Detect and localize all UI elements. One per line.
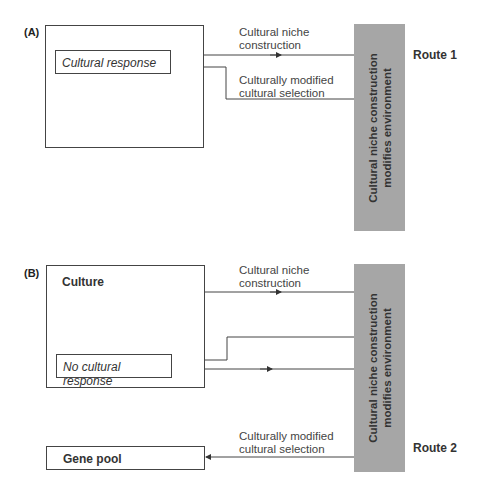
label-line: Cultural niche xyxy=(239,26,309,39)
cultural-response-label: Cultural response xyxy=(62,56,156,70)
gene-pool-label: Gene pool xyxy=(63,452,122,466)
bar-line: Cultural niche construction xyxy=(366,293,380,443)
label-line: cultural selection xyxy=(239,87,334,100)
niche-construction-label-a: Cultural niche construction xyxy=(239,26,309,51)
bar-line: modifies environment xyxy=(380,293,394,443)
cultural-response-box: Cultural response xyxy=(55,50,171,74)
cultural-selection-label-a: Culturally modified cultural selection xyxy=(239,74,334,99)
environment-bar-a: Cultural niche construction modifies env… xyxy=(354,24,405,231)
label-line: cultural selection xyxy=(239,443,334,456)
route-2-label: Route 2 xyxy=(413,441,457,455)
label-line: Culturally modified xyxy=(239,430,334,443)
label-line: construction xyxy=(239,39,309,52)
label-line: Cultural niche xyxy=(239,264,309,277)
culture-title: Culture xyxy=(62,275,104,289)
label-line: construction xyxy=(239,277,309,290)
environment-bar-text-a: Cultural niche construction modifies env… xyxy=(366,53,394,203)
panel-a-label: (A) xyxy=(24,26,39,38)
label-line: Culturally modified xyxy=(239,74,334,87)
cultural-selection-label-b: Culturally modified cultural selection xyxy=(239,430,334,455)
bar-line: modifies environment xyxy=(380,53,394,203)
no-cultural-response-label: No cultural response xyxy=(63,360,171,388)
route-1-label: Route 1 xyxy=(413,48,457,62)
niche-construction-label-b: Cultural niche construction xyxy=(239,264,309,289)
culture-box-a xyxy=(45,25,204,148)
environment-bar-b: Cultural niche construction modifies env… xyxy=(354,264,405,472)
panel-b-label: (B) xyxy=(24,267,39,279)
gene-pool-box: Gene pool xyxy=(46,446,205,470)
no-cultural-response-box: No cultural response xyxy=(56,354,172,378)
bar-line: Cultural niche construction xyxy=(366,53,380,203)
environment-bar-text-b: Cultural niche construction modifies env… xyxy=(366,293,394,443)
